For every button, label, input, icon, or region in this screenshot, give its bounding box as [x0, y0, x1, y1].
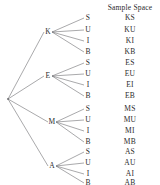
level2-node-15: B	[85, 179, 90, 185]
level2-node-13: U	[85, 159, 91, 167]
outcome-au: AU	[124, 159, 135, 167]
level2-node-0: S	[86, 14, 90, 22]
outcome-mi: MI	[125, 127, 135, 135]
level1-node-m: M	[49, 118, 56, 126]
edge-a-to-s	[56, 152, 84, 166]
edge-root-to-a-3	[8, 99, 48, 166]
outcome-ks: KS	[125, 14, 135, 22]
level2-node-7: B	[85, 92, 90, 100]
edge-a-to-b	[56, 166, 84, 183]
outcome-kb: KB	[124, 48, 135, 56]
level2-node-8: S	[86, 105, 90, 113]
outcome-as: AS	[125, 148, 135, 156]
outcome-ms: MS	[124, 105, 135, 113]
level2-node-9: U	[85, 116, 91, 124]
outcome-eu: EU	[125, 70, 136, 78]
root-node	[7, 98, 9, 100]
edge-m-to-b	[56, 122, 84, 142]
edge-k-to-s	[52, 18, 84, 32]
level2-node-3: B	[85, 48, 90, 56]
level2-node-11: B	[85, 138, 90, 146]
edge-a-to-i	[56, 166, 84, 174]
edge-k-to-u	[52, 30, 84, 32]
level2-node-1: U	[85, 26, 91, 34]
edge-root-to-k-0	[8, 32, 44, 99]
tree-diagram-canvas: Sample Space KEMA SUIBSUIBSUIBSUIB KSKUK…	[0, 0, 160, 185]
edge-root-to-e-1	[8, 76, 44, 99]
level1-node-k: K	[45, 28, 51, 36]
level2-node-6: I	[87, 81, 90, 89]
level2-node-4: S	[86, 59, 90, 67]
level1-node-e: E	[46, 72, 51, 80]
outcome-mu: MU	[124, 116, 137, 124]
outcome-ai: AI	[126, 170, 135, 178]
level2-node-5: U	[85, 70, 91, 78]
level2-node-14: I	[87, 170, 90, 178]
outcome-ab: AB	[124, 179, 135, 185]
level1-node-a: A	[49, 162, 55, 170]
outcome-es: ES	[125, 59, 134, 67]
level2-node-10: I	[87, 127, 90, 135]
level2-node-2: I	[87, 37, 90, 45]
sample-space-title: Sample Space	[108, 3, 153, 12]
tree-edges-svg	[0, 0, 160, 185]
outcome-ki: KI	[126, 37, 135, 45]
edge-e-to-i	[52, 76, 84, 85]
edge-e-to-b	[52, 76, 84, 96]
edge-root-to-m-2	[8, 99, 48, 122]
edge-k-to-b	[52, 32, 84, 52]
edge-k-to-i	[52, 32, 84, 41]
level2-node-12: S	[86, 148, 90, 156]
outcome-ei: EI	[126, 81, 134, 89]
edge-a-to-u	[56, 163, 84, 166]
outcome-ku: KU	[124, 26, 135, 34]
outcome-eb: EB	[125, 92, 135, 100]
edge-m-to-i	[56, 122, 84, 131]
outcome-mb: MB	[124, 138, 136, 146]
